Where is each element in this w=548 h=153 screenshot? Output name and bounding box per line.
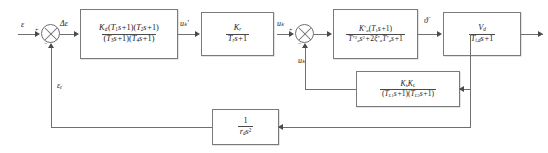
- label-error-delta-epsilon: Δε: [60, 20, 68, 28]
- wire-outer-feedback-up: [51, 48, 52, 127]
- label-inner-feedback-signal: uₖ: [298, 57, 305, 65]
- block-airframe-dynamics: K*a(T1s +1) T*2as2 + 2ξ*aT*as +1: [333, 9, 418, 59]
- summer1-minus-sign: −: [44, 40, 47, 46]
- label-outer-feedback-signal: εₑ: [57, 82, 62, 90]
- actuator-transfer-function: Kr Trs +1: [226, 24, 249, 44]
- label-pitch-rate: ϑ̇: [424, 17, 428, 25]
- kinematics-numerator: Vd: [476, 24, 488, 33]
- wire-outer-feedback-left: [279, 127, 471, 128]
- arrow-output: [538, 31, 543, 37]
- wire-inner-feedback-up: [305, 48, 306, 89]
- kinematics-transfer-function: Vd Ti,ds +1: [469, 24, 496, 44]
- wire-outer-feedback-down: [470, 89, 471, 127]
- compensator-transfer-function: Kd (T1s +1)(T2s +1) (T3s +1)(T4s +1): [97, 24, 161, 44]
- block-velocity-kinematics: Vd Ti,ds +1: [443, 12, 521, 56]
- wire-inner-feedback-down: [470, 34, 471, 89]
- label-compensator-output: uₖ': [180, 20, 189, 28]
- arrow-into-kinematics: [437, 31, 442, 37]
- airframe-transfer-function: K*a(T1s +1) T*2as2 + 2ξ*aT*as +1: [346, 25, 405, 43]
- arrow-into-actuator: [195, 31, 200, 37]
- arrow-into-airframe: [327, 31, 332, 37]
- summer2-minus-sign: −: [298, 40, 301, 46]
- wire-input: [18, 34, 36, 35]
- arrow-into-summer1-minus: [48, 43, 54, 48]
- wire-inner-feedback-left: [305, 89, 356, 90]
- block-actuator-lag: Kr Trs +1: [201, 12, 274, 56]
- airframe-numerator: K*a(T1s +1): [357, 25, 394, 34]
- compensator-numerator: Kd (T1s +1)(T2s +1): [97, 24, 161, 33]
- position-feedback-denominator: rds2: [238, 126, 254, 137]
- arrow-into-compensator: [74, 31, 79, 37]
- actuator-denominator: Trs +1: [226, 34, 249, 44]
- summer2-plus-sign: +: [289, 27, 292, 33]
- control-block-diagram: + − + − Kd (T1s +1)(T2s +1) (T3s +1)(T4s…: [0, 0, 548, 153]
- arrow-into-position-feedback: [278, 124, 283, 130]
- label-actuator-output: uₖ: [277, 20, 284, 28]
- position-feedback-transfer-function: 1 rds2: [238, 117, 254, 137]
- actuator-numerator: Kr: [232, 24, 244, 33]
- compensator-denominator: (T3s +1)(T4s +1): [102, 34, 157, 44]
- rate-feedback-denominator: (TL1s +1)(TL2s +1): [380, 89, 436, 99]
- label-input-epsilon: ε: [21, 21, 24, 29]
- block-outer-position-feedback: 1 rds2: [212, 109, 279, 145]
- arrow-into-summer2-minus: [302, 43, 308, 48]
- kinematics-denominator: Ti,ds +1: [469, 34, 496, 44]
- block-inner-rate-feedback: KkKL (TL1s +1)(TL2s +1): [356, 71, 460, 107]
- arrow-into-rate-feedback: [459, 86, 464, 92]
- position-feedback-numerator: 1: [241, 117, 249, 126]
- wire-outer-feedback-to-summer1: [51, 127, 212, 128]
- summer1-plus-sign: +: [35, 27, 38, 33]
- rate-feedback-transfer-function: KkKL (TL1s +1)(TL2s +1): [380, 80, 436, 98]
- rate-feedback-numerator: KkKL: [399, 80, 418, 89]
- block-lead-lag-compensator: Kd (T1s +1)(T2s +1) (T3s +1)(T4s +1): [80, 9, 178, 59]
- airframe-denominator: T*2as2 + 2ξ*aT*as +1: [346, 34, 405, 44]
